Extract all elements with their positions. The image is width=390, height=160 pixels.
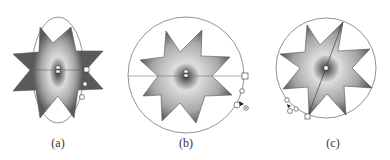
radius-handle[interactable] xyxy=(84,67,89,72)
panel-a-caption: (a) xyxy=(51,136,64,151)
scale-handle[interactable] xyxy=(285,98,290,103)
panel-b-caption: (b) xyxy=(179,136,193,151)
focus-handle[interactable] xyxy=(240,89,245,94)
panel-b xyxy=(128,17,248,133)
center-handle[interactable] xyxy=(184,70,188,73)
focus-handle[interactable] xyxy=(294,107,298,111)
scale-handle-dot xyxy=(245,107,247,109)
panel-a xyxy=(13,17,103,123)
focus-handle[interactable] xyxy=(83,82,87,86)
radius-handle[interactable] xyxy=(305,114,310,119)
center-handle-lower[interactable] xyxy=(184,74,188,77)
rotate-handle[interactable] xyxy=(234,102,240,108)
center-handle-lower[interactable] xyxy=(56,70,60,73)
panel-c-caption: (c) xyxy=(326,136,339,151)
rotate-handle[interactable] xyxy=(80,95,85,100)
center-handle[interactable] xyxy=(56,66,60,69)
rotate-handle[interactable] xyxy=(288,109,293,114)
center-handle[interactable] xyxy=(324,66,328,70)
radius-handle[interactable] xyxy=(242,73,248,79)
arrow-cursor-icon xyxy=(287,104,291,108)
panel-c xyxy=(276,18,376,119)
